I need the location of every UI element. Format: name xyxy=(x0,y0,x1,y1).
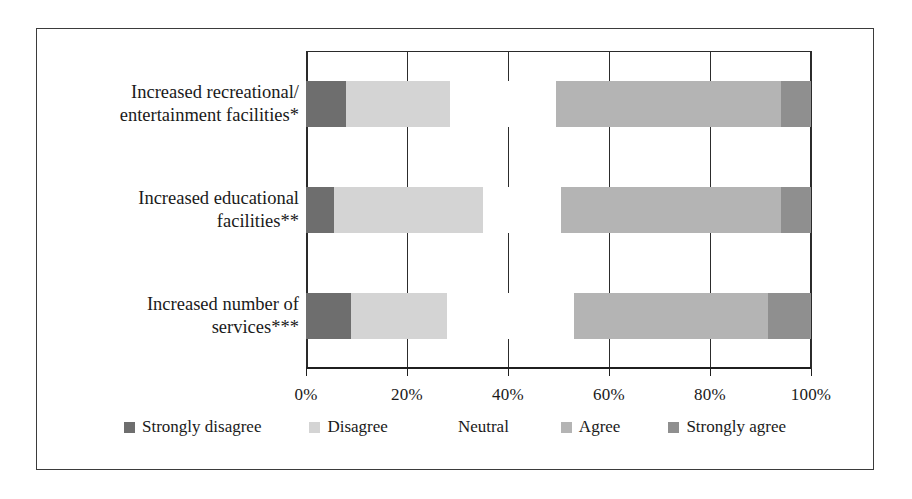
bar-row xyxy=(306,81,811,127)
legend-swatch-icon xyxy=(668,422,679,433)
category-label: Increased number ofservices*** xyxy=(47,293,299,340)
legend-label: Disagree xyxy=(327,417,387,437)
bar-segment-agree xyxy=(574,293,768,339)
bar-row xyxy=(306,293,811,339)
bar-segment-neutral xyxy=(483,187,561,233)
bar-segment-disagree xyxy=(346,81,450,127)
category-label-line: facilities** xyxy=(47,210,299,234)
legend-label: Strongly disagree xyxy=(142,417,261,437)
category-label-line: Increased recreational/ xyxy=(47,81,299,105)
legend-item-agree[interactable]: Agree xyxy=(561,417,621,437)
chart-legend: Strongly disagreeDisagreeNeutralAgreeStr… xyxy=(37,417,873,437)
x-tick-label: 0% xyxy=(294,385,317,405)
bar-segment-strongly-disagree xyxy=(306,293,351,339)
x-tick xyxy=(508,369,509,376)
gridline xyxy=(811,51,812,369)
x-tick xyxy=(710,369,711,376)
bar-segment-strongly-disagree xyxy=(306,187,334,233)
category-label-line: Increased educational xyxy=(47,187,299,211)
legend-swatch-icon xyxy=(440,422,451,433)
plot-area: 0%20%40%60%80%100% xyxy=(306,51,811,369)
x-tick xyxy=(811,369,812,376)
category-label-line: entertainment facilities* xyxy=(47,104,299,128)
bar-segment-disagree xyxy=(334,187,483,233)
x-tick xyxy=(609,369,610,376)
x-tick-label: 100% xyxy=(791,385,831,405)
x-tick-label: 40% xyxy=(492,385,524,405)
bar-segment-disagree xyxy=(351,293,447,339)
legend-item-strongly-agree[interactable]: Strongly agree xyxy=(668,417,786,437)
bar-segment-neutral xyxy=(450,81,556,127)
legend-item-disagree[interactable]: Disagree xyxy=(309,417,387,437)
x-tick xyxy=(407,369,408,376)
bar-segment-strongly-agree xyxy=(781,187,811,233)
legend-swatch-icon xyxy=(561,422,572,433)
legend-label: Agree xyxy=(579,417,621,437)
x-tick-label: 20% xyxy=(391,385,423,405)
x-tick-label: 80% xyxy=(694,385,726,405)
legend-label: Neutral xyxy=(458,417,509,437)
bar-row xyxy=(306,187,811,233)
bar-segment-agree xyxy=(556,81,781,127)
category-label: Increased recreational/entertainment fac… xyxy=(47,81,299,128)
category-label: Increased educationalfacilities** xyxy=(47,187,299,234)
category-label-line: Increased number of xyxy=(47,293,299,317)
bar-segment-strongly-disagree xyxy=(306,81,346,127)
legend-label: Strongly agree xyxy=(686,417,786,437)
legend-swatch-icon xyxy=(124,422,135,433)
x-axis-line xyxy=(306,367,811,369)
x-tick-label: 60% xyxy=(593,385,625,405)
category-axis-labels: Increased recreational/entertainment fac… xyxy=(37,51,299,369)
category-label-line: services*** xyxy=(47,316,299,340)
legend-swatch-icon xyxy=(309,422,320,433)
bar-segment-neutral xyxy=(447,293,573,339)
figure-panel: Increased recreational/entertainment fac… xyxy=(36,28,874,470)
legend-item-strongly-disagree[interactable]: Strongly disagree xyxy=(124,417,261,437)
legend-item-neutral[interactable]: Neutral xyxy=(440,417,509,437)
x-tick xyxy=(306,369,307,376)
bar-segment-strongly-agree xyxy=(781,81,811,127)
bar-segment-strongly-agree xyxy=(768,293,811,339)
bar-segment-agree xyxy=(561,187,781,233)
